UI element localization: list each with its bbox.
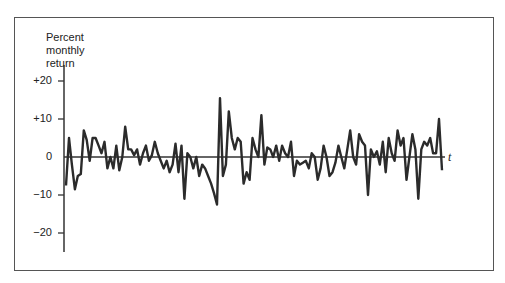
return-series-line: [66, 98, 442, 204]
plot-area: [0, 0, 505, 283]
